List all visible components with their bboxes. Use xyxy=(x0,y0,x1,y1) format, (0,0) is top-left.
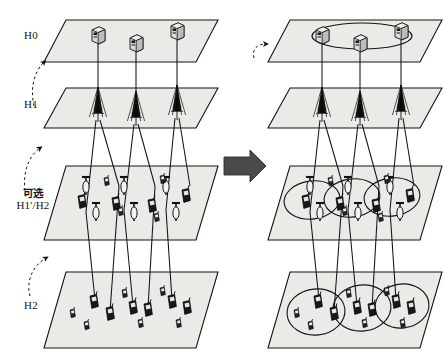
transition-arrow xyxy=(224,150,266,182)
topology-diagram xyxy=(0,0,445,364)
layer-label-h1-prime-h2: H1'/H2 xyxy=(6,200,60,212)
left-panel xyxy=(25,20,218,348)
figure-canvas: H0 H1 可选 H1'/H2 H2 xyxy=(0,0,445,364)
layer-label-h2: H2 xyxy=(14,300,48,312)
layer-label-optional-cjk: 可选 xyxy=(6,188,60,200)
right-panel xyxy=(254,20,443,348)
layer-label-h0: H0 xyxy=(14,30,48,42)
layer-label-h1: H1 xyxy=(14,99,48,111)
dashed-arrow-right xyxy=(254,44,267,58)
